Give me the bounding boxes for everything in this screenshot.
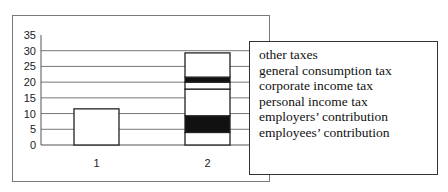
bar-segment <box>185 53 230 77</box>
y-tick-label: 10 <box>24 108 36 120</box>
y-tick-label: 30 <box>24 45 36 57</box>
y-axis-labels: 05101520253035 <box>24 29 36 151</box>
y-tick-label: 15 <box>24 92 36 104</box>
legend-item-other-taxes: other taxes <box>259 47 437 63</box>
y-tick-label: 25 <box>24 60 36 72</box>
x-tick-label: 1 <box>93 157 99 169</box>
bar-segment <box>185 82 230 89</box>
bar-segment <box>185 116 230 133</box>
y-tick-label: 0 <box>30 139 36 151</box>
y-tick-label: 20 <box>24 76 36 88</box>
legend-item-personal-income-tax: personal income tax <box>259 94 437 110</box>
legend-item-employees-contribution: employees’ contribution <box>259 125 437 141</box>
bar-segment <box>185 89 230 116</box>
legend-item-employers-contribution: employers’ contribution <box>259 109 437 125</box>
y-tick-label: 35 <box>24 29 36 41</box>
bar-segment <box>185 77 230 82</box>
bar-segment <box>74 109 119 145</box>
x-axis-labels: 12 <box>93 157 210 169</box>
bar-segment <box>185 132 230 145</box>
x-tick-label: 2 <box>204 157 210 169</box>
legend: other taxes general consumption tax corp… <box>249 41 438 175</box>
y-tick-label: 5 <box>30 123 36 135</box>
legend-item-general-consumption-tax: general consumption tax <box>259 63 437 79</box>
legend-item-corporate-income-tax: corporate income tax <box>259 78 437 94</box>
